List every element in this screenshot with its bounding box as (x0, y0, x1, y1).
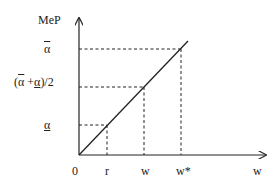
y-axis-label: MeP (38, 14, 61, 26)
x-tick-w: w (141, 165, 150, 177)
y-tick-alpha-bar: α (44, 43, 50, 55)
mep-line (79, 41, 188, 155)
midpoint-close: )/2 (40, 75, 53, 89)
diagram-canvas (0, 0, 277, 182)
y-tick-midpoint: (α +α)/2 (14, 76, 54, 88)
x-axis-label: w (253, 165, 262, 177)
midpoint-plus: + (24, 75, 34, 89)
origin-label: 0 (72, 165, 78, 177)
x-tick-w-star: w* (176, 165, 191, 177)
x-tick-r: r (105, 165, 109, 177)
y-tick-alpha-under: α (44, 119, 50, 131)
